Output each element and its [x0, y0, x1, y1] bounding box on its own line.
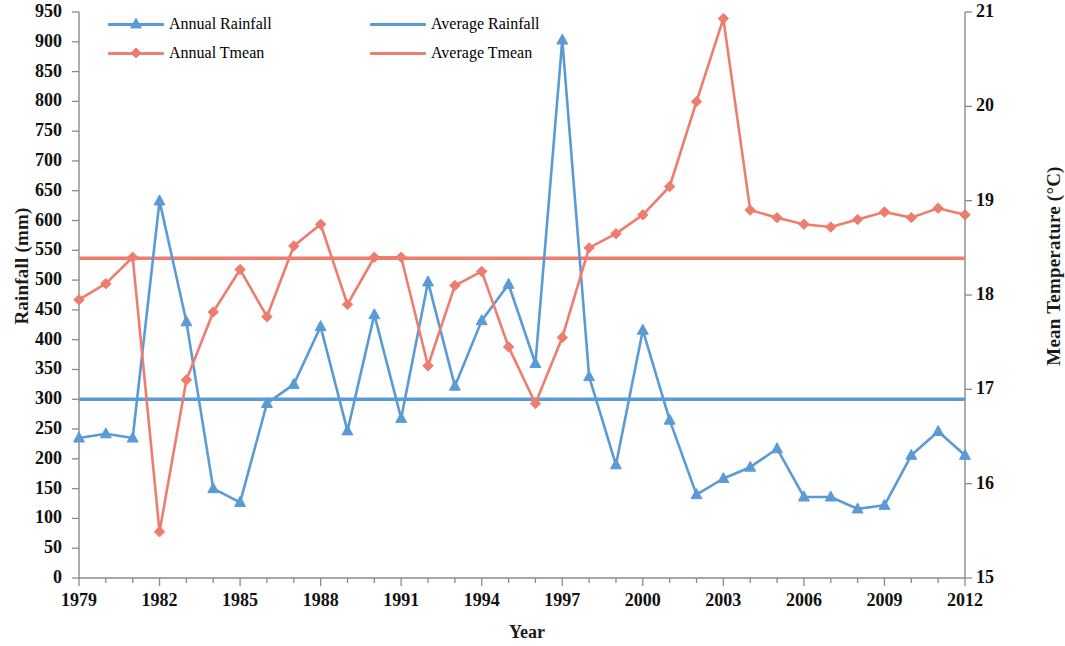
legend-swatch-icon — [108, 46, 164, 60]
data-point-marker — [342, 425, 353, 435]
y-tick-label-left: 800 — [2, 90, 62, 111]
y-tick-label-right: 21 — [976, 1, 1026, 22]
data-point-marker — [557, 332, 567, 342]
legend-item-average-rainfall[interactable]: Average Rainfall — [370, 16, 540, 32]
series-annual-rainfall — [74, 34, 971, 513]
y-tick-label-left: 500 — [2, 269, 62, 290]
series-line — [79, 19, 965, 532]
legend-label: Annual Tmean — [169, 45, 264, 61]
y-tick-label-left: 650 — [2, 180, 62, 201]
y-tick-label-left: 400 — [2, 329, 62, 350]
data-point-marker — [315, 321, 326, 331]
data-point-marker — [369, 309, 380, 319]
triangle-marker-icon — [130, 18, 142, 30]
y-tick-label-left: 950 — [2, 1, 62, 22]
legend-label: Average Tmean — [431, 45, 532, 61]
x-tick-label: 2009 — [849, 590, 919, 611]
data-point-marker — [799, 219, 809, 229]
y-tick-label-left: 600 — [2, 210, 62, 231]
data-point-marker — [879, 207, 889, 217]
y-tick-label-right: 16 — [976, 473, 1026, 494]
data-point-marker — [154, 195, 165, 205]
data-point-marker — [664, 414, 675, 424]
data-point-marker — [718, 13, 728, 23]
data-point-marker — [208, 483, 219, 493]
legend-item-annual-tmean[interactable]: Annual Tmean — [108, 45, 264, 61]
data-point-marker — [449, 380, 460, 390]
data-point-marker — [933, 203, 943, 213]
y-axis-right-title: Mean Temperature (°C) — [1043, 166, 1065, 366]
data-point-marker — [262, 311, 272, 321]
x-tick-label: 1991 — [366, 590, 436, 611]
data-point-marker — [557, 34, 568, 44]
data-point-marker — [288, 378, 299, 388]
x-tick-label: 2000 — [608, 590, 678, 611]
data-point-marker — [584, 243, 594, 253]
legend-swatch-icon — [108, 17, 164, 31]
series-line — [79, 40, 965, 509]
data-point-marker — [906, 212, 916, 222]
y-tick-label-left: 750 — [2, 120, 62, 141]
data-point-marker — [396, 252, 406, 262]
y-tick-label-right: 19 — [976, 190, 1026, 211]
data-point-marker — [100, 428, 111, 438]
y-tick-label-right: 15 — [976, 567, 1026, 588]
data-point-marker — [852, 214, 862, 224]
y-tick-label-left: 250 — [2, 418, 62, 439]
y-tick-label-right: 20 — [976, 95, 1026, 116]
data-point-marker — [396, 412, 407, 422]
diamond-marker-icon — [130, 47, 142, 59]
data-point-marker — [960, 210, 970, 220]
data-point-marker — [423, 361, 433, 371]
data-point-marker — [131, 18, 142, 28]
x-tick-label: 2012 — [930, 590, 1000, 611]
x-tick-label: 1997 — [527, 590, 597, 611]
legend-label: Annual Rainfall — [169, 16, 272, 32]
x-axis-title: Year — [0, 622, 1054, 643]
data-point-marker — [584, 371, 595, 381]
legend-label: Average Rainfall — [431, 16, 540, 32]
y-tick-label-left: 0 — [2, 567, 62, 588]
x-tick-label: 1982 — [125, 590, 195, 611]
y-tick-label-left: 150 — [2, 478, 62, 499]
data-point-marker — [423, 276, 434, 286]
x-tick-label: 1988 — [286, 590, 356, 611]
x-tick-label: 1979 — [44, 590, 114, 611]
y-tick-label-left: 300 — [2, 388, 62, 409]
legend-swatch-icon — [370, 46, 426, 60]
y-tick-label-left: 450 — [2, 299, 62, 320]
data-point-marker — [637, 324, 648, 334]
data-point-marker — [342, 299, 352, 309]
data-point-marker — [745, 205, 755, 215]
legend-item-annual-rainfall[interactable]: Annual Rainfall — [108, 16, 272, 32]
y-tick-label-left: 200 — [2, 448, 62, 469]
data-point-marker — [503, 342, 513, 352]
x-tick-label: 1994 — [447, 590, 517, 611]
y-tick-label-right: 18 — [976, 284, 1026, 305]
y-tick-label-left: 900 — [2, 31, 62, 52]
x-tick-label: 2006 — [769, 590, 839, 611]
data-point-marker — [154, 527, 164, 537]
data-point-marker — [181, 375, 191, 385]
data-point-marker — [181, 316, 192, 326]
data-point-marker — [369, 252, 379, 262]
data-point-marker — [530, 358, 541, 368]
x-tick-label: 2003 — [688, 590, 758, 611]
y-tick-label-left: 350 — [2, 358, 62, 379]
data-point-marker — [691, 96, 701, 106]
y-tick-label-right: 17 — [976, 378, 1026, 399]
y-tick-label-left: 100 — [2, 507, 62, 528]
data-point-marker — [772, 443, 783, 453]
x-tick-label: 1985 — [205, 590, 275, 611]
data-point-marker — [772, 212, 782, 222]
y-tick-label-left: 850 — [2, 61, 62, 82]
data-point-marker — [477, 266, 487, 276]
data-point-marker — [503, 278, 514, 288]
legend-item-average-tmean[interactable]: Average Tmean — [370, 45, 532, 61]
data-point-marker — [131, 48, 141, 58]
data-point-marker — [611, 459, 622, 469]
data-point-marker — [745, 461, 756, 471]
data-point-marker — [450, 280, 460, 290]
